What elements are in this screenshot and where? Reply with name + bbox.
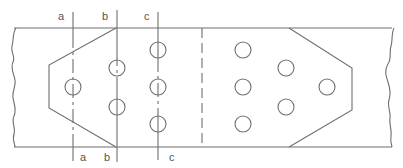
label-c-top: c [144,10,150,22]
label-b-bottom: b [104,151,110,163]
label-a-bottom: a [80,151,87,163]
splice-diagram: a b c a b c [0,0,403,168]
bolt-hole [235,116,251,132]
splice-plate-outline [49,28,352,147]
bolt-hole [278,99,294,115]
label-c-bottom: c [169,151,175,163]
label-b-top: b [102,10,108,22]
bolt-hole [235,42,251,58]
left-break-line [12,28,16,147]
bolt-hole [235,79,251,95]
bolt-hole [319,79,335,95]
bolt-hole [278,60,294,76]
right-break-line [386,28,394,147]
label-a-top: a [58,10,65,22]
